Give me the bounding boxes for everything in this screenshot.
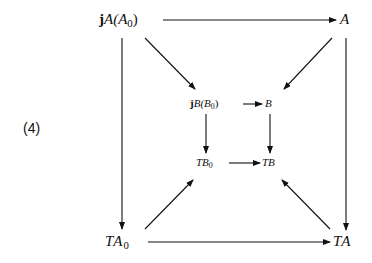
node-jA-A0: jA(A0) [99, 12, 138, 27]
arrow-jA-to-jB [145, 38, 195, 89]
equation-number: (4) [23, 120, 40, 136]
arrow-TA0-to-TB0 [145, 180, 193, 229]
node-TB: TB [262, 157, 275, 168]
node-jB-B0: jB(B0) [190, 98, 218, 109]
node-B: B [265, 98, 272, 109]
arrow-A-to-jB [284, 38, 332, 89]
node-TB0: TB0 [196, 157, 213, 168]
node-TA0: TA0 [105, 234, 130, 249]
node-A: A [340, 12, 349, 27]
node-TA: TA [333, 234, 351, 249]
commutative-diagram [0, 0, 372, 263]
arrow-TA-to-TB0 [282, 180, 330, 229]
